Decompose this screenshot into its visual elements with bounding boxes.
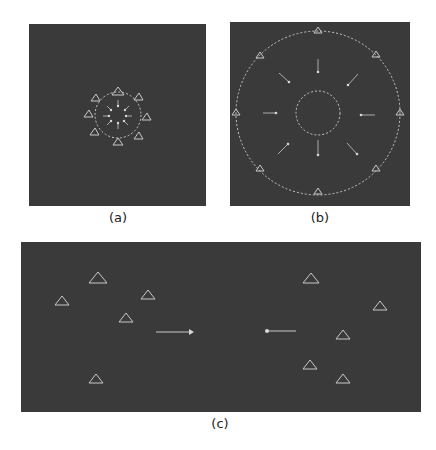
caption-b: (b)	[300, 210, 340, 225]
arrow-right-head-icon	[189, 329, 194, 335]
panel-a-graphic	[29, 24, 206, 206]
panel-b-graphic	[230, 22, 410, 206]
arrow-left-head-icon	[265, 329, 269, 333]
right-triangle-group	[303, 273, 387, 383]
dashed-circle	[95, 92, 141, 138]
outward-arrows	[263, 59, 375, 155]
inner-dashed-circle	[296, 91, 340, 135]
panel-b	[230, 22, 410, 206]
caption-a: (a)	[98, 210, 138, 225]
caption-c: (c)	[200, 416, 240, 431]
inward-arrows	[103, 100, 132, 129]
outer-dashed-circle	[236, 31, 400, 195]
left-triangle-group	[55, 272, 155, 383]
triangle-markers	[232, 27, 404, 194]
panel-a	[29, 24, 206, 206]
panel-c	[21, 242, 421, 412]
panel-c-graphic	[21, 242, 421, 412]
